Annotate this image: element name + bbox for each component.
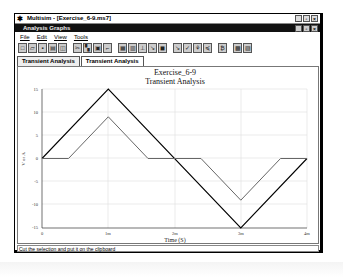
tab-transient-analysis-2[interactable]: Transient Analysis <box>81 56 144 66</box>
grid-icon[interactable]: ▦ <box>118 43 127 53</box>
paste-special-icon[interactable]: ⌐ <box>103 43 112 53</box>
save-icon[interactable]: ▪ <box>38 43 47 53</box>
multisim-app-icon: ✱ <box>17 15 25 22</box>
minimize-button[interactable]: _ <box>295 15 302 22</box>
y-tick-labels: 15 10 5 0 -5 -10 -15 <box>32 87 39 230</box>
copy-icon[interactable]: ▚ <box>83 43 92 53</box>
menu-bar: File Edit View Tools <box>15 33 320 42</box>
multisim-window: ✱ Multisim - [Exercise_6-9.ms7] _ ▫ × An… <box>14 13 323 253</box>
subwindow-title: Analysis Graphs <box>23 24 70 32</box>
svg-text:2m: 2m <box>172 231 178 236</box>
svg-text:-15: -15 <box>32 225 39 230</box>
graph-area[interactable]: Exercise_6-9 Transient Analysis 15 10 5 … <box>17 66 319 244</box>
svg-text:5: 5 <box>36 133 39 138</box>
menu-view[interactable]: View <box>54 33 67 42</box>
properties-icon[interactable]: ✓ <box>183 43 192 53</box>
sub-restore-button[interactable]: ▫ <box>303 25 310 32</box>
print-preview-icon[interactable]: ◫ <box>58 43 67 53</box>
restore-button[interactable]: ▫ <box>303 15 310 22</box>
toolbar: □ ▱ ▪ ▤ ◫ ✂ ▚ ▣ ⌐ ▦ ▥ ⊥ ↘ ◼ ↘ ✓ ⚘ ≼ ₿ ▩ … <box>18 43 252 55</box>
svg-text:0: 0 <box>36 156 39 161</box>
cut-icon[interactable]: ✂ <box>73 43 82 53</box>
new-icon[interactable]: □ <box>18 43 27 53</box>
reverse-colors-icon[interactable]: ↘ <box>173 43 182 53</box>
svg-text:1m: 1m <box>105 231 111 236</box>
restore-zoom-icon[interactable]: ◼ <box>158 43 167 53</box>
print-icon[interactable]: ▤ <box>48 43 57 53</box>
tab-bar: Transient Analysis Transient Analysis <box>17 56 145 66</box>
legend-icon[interactable]: ▥ <box>128 43 137 53</box>
x-tick-labels: 0 1m 2m 3m 4m <box>41 231 310 236</box>
export-excel-icon[interactable]: ▩ <box>233 43 242 53</box>
transient-chart: Exercise_6-9 Transient Analysis 15 10 5 … <box>18 67 318 243</box>
svg-text:15: 15 <box>34 87 39 92</box>
open-icon[interactable]: ▱ <box>28 43 37 53</box>
chart-subtitle: Transient Analysis <box>145 77 205 86</box>
close-button[interactable]: × <box>311 15 318 22</box>
status-bar: Cut the selection and put it on the clip… <box>17 245 319 252</box>
svg-text:0: 0 <box>41 231 44 236</box>
menu-edit[interactable]: Edit <box>37 33 47 42</box>
y-axis-label: V or A <box>21 152 26 166</box>
title-bar: ✱ Multisim - [Exercise_6-9.ms7] _ ▫ × <box>15 14 320 24</box>
series-output-trace <box>42 117 307 200</box>
tab-transient-analysis-1[interactable]: Transient Analysis <box>17 56 80 66</box>
menu-file[interactable]: File <box>20 33 30 42</box>
sub-close-button[interactable]: × <box>311 25 318 32</box>
svg-text:-5: -5 <box>34 179 38 184</box>
window-title: Multisim - [Exercise_6-9.ms7] <box>27 14 111 23</box>
cursors-icon[interactable]: ⊥ <box>138 43 147 53</box>
paste-icon[interactable]: ▣ <box>93 43 102 53</box>
zoom-icon[interactable]: ↘ <box>148 43 157 53</box>
chart-title: Exercise_6-9 <box>154 68 196 77</box>
menu-tools[interactable]: Tools <box>74 33 88 42</box>
svg-text:-10: -10 <box>32 202 39 207</box>
export-mathcad-icon[interactable]: ▨ <box>243 43 252 53</box>
svg-text:10: 10 <box>34 110 39 115</box>
svg-text:4m: 4m <box>304 231 310 236</box>
sub-minimize-button[interactable]: _ <box>295 25 302 32</box>
x-axis-label: Time (S) <box>164 237 185 243</box>
export-icon[interactable]: ₿ <box>218 43 227 53</box>
overlay-traces-icon[interactable]: ⚘ <box>193 43 202 53</box>
add-trace-icon[interactable]: ≼ <box>203 43 212 53</box>
page-shadow <box>0 262 343 277</box>
analysis-graphs-titlebar: Analysis Graphs _ ▫ × <box>15 24 320 32</box>
svg-text:3m: 3m <box>238 231 244 236</box>
